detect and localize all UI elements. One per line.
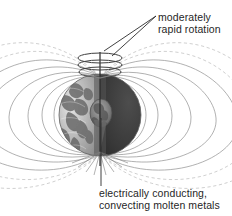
rotation-label-line-2: rapid rotation: [158, 23, 221, 35]
moderately-rapid-rotation-label: moderately rapid rotation: [158, 11, 221, 35]
leader-line-rotation-a: [104, 16, 156, 51]
leader-line-rotation-b: [112, 16, 156, 56]
electrically-conducting-core-label: electrically conducting, convecting molt…: [99, 187, 220, 211]
rotation-label-line-1: moderately: [158, 11, 221, 23]
geodynamo-diagram: moderately rapid rotation electrically c…: [0, 0, 232, 216]
core-label-line-2: convecting molten metals: [99, 199, 220, 211]
core-label-line-1: electrically conducting,: [99, 187, 220, 199]
